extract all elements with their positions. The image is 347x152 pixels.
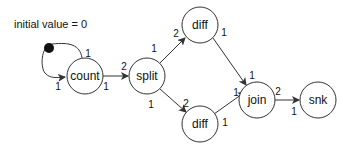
node-label: split: [136, 69, 158, 83]
node-split: split: [129, 58, 165, 94]
edge-label: 1: [103, 81, 109, 92]
node-join: join: [239, 82, 275, 118]
initial-token: [44, 43, 54, 53]
node-diff-bottom: diff: [182, 106, 218, 142]
edge-label: 1: [148, 99, 154, 110]
edge-label: 1: [249, 70, 255, 81]
edge-label: 1: [221, 27, 227, 38]
edge-diff-top-join: [213, 38, 246, 85]
edge-label: 1: [291, 106, 297, 117]
edge-split-diff-top: [160, 38, 185, 63]
node-label: count: [70, 69, 100, 83]
node-count: count: [67, 58, 103, 94]
node-label: diff: [192, 18, 208, 32]
dataflow-diagram: initial value = 0 1 1 1 2 1 2 1 2 1 1 1 …: [0, 0, 347, 152]
edge-label: 1: [233, 87, 239, 98]
initial-value-annotation: initial value = 0: [14, 18, 87, 30]
edge-label: 2: [275, 86, 281, 97]
node-label: snk: [309, 93, 329, 107]
edge-label: 1: [151, 43, 157, 54]
node-label: join: [247, 93, 267, 107]
node-snk: snk: [300, 82, 336, 118]
node-label: diff: [192, 117, 208, 131]
edge-label: 1: [222, 117, 228, 128]
edge-label: 2: [173, 28, 179, 39]
edge-label: 1: [85, 48, 91, 59]
edge-label: 2: [183, 98, 189, 109]
edge-label: 1: [55, 81, 61, 92]
edge-split-diff-bottom: [160, 89, 186, 112]
node-diff-top: diff: [182, 7, 218, 43]
edge-label: 2: [121, 61, 127, 72]
